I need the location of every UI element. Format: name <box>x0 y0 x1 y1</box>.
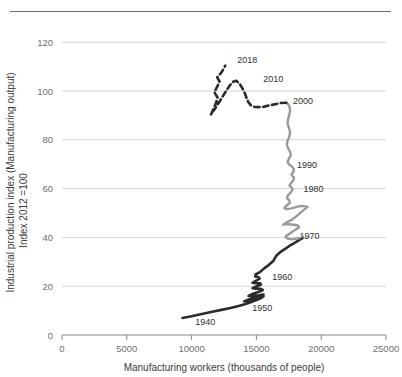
x-tick-label: 20000 <box>308 343 334 354</box>
year-label-2018: 2018 <box>237 55 257 65</box>
x-tick-label: 5000 <box>116 343 137 354</box>
series-line <box>211 66 286 115</box>
x-tick-group <box>62 335 386 340</box>
y-tick-label-group: 020406080100120 <box>37 37 53 341</box>
y-tick-label: 60 <box>42 183 53 194</box>
year-label-2010: 2010 <box>263 74 283 84</box>
series-line <box>283 103 308 240</box>
axis-title-group: Manufacturing workers (thousands of peop… <box>5 72 324 373</box>
x-tick-label: 25000 <box>373 343 399 354</box>
chart-figure: 020406080100120 050001000015000200002500… <box>0 0 402 377</box>
y-tick-label: 0 <box>48 330 53 341</box>
y-axis-title: Industrial production index (Manufacturi… <box>5 72 16 292</box>
x-tick-label-group: 0500010000150002000025000 <box>59 343 399 354</box>
gridlines-group <box>62 42 386 286</box>
x-axis-title: Manufacturing workers (thousands of peop… <box>124 362 325 373</box>
y-tick-label: 100 <box>37 86 53 97</box>
y-tick-label: 20 <box>42 281 53 292</box>
year-label-1950: 1950 <box>252 303 272 313</box>
year-label-1940: 1940 <box>195 317 215 327</box>
y-tick-label: 40 <box>42 232 53 243</box>
year-label-1970: 1970 <box>300 231 320 241</box>
connected-scatter-plot: 020406080100120 050001000015000200002500… <box>0 0 402 377</box>
y-axis-title-line2: Index 2012 =100 <box>18 173 29 248</box>
year-label-1980: 1980 <box>303 184 323 194</box>
year-label-1990: 1990 <box>297 160 317 170</box>
year-label-2000: 2000 <box>293 96 313 106</box>
y-tick-label: 80 <box>42 134 53 145</box>
year-label-1960: 1960 <box>272 272 292 282</box>
x-tick-label: 10000 <box>178 343 204 354</box>
x-tick-label: 15000 <box>243 343 269 354</box>
x-tick-label: 0 <box>59 343 64 354</box>
y-tick-label: 120 <box>37 37 53 48</box>
